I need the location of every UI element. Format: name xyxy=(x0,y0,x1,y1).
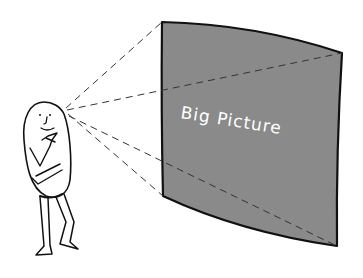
sight-line-top-left xyxy=(66,22,162,108)
big-picture-illustration: Big Picture xyxy=(0,0,363,278)
thinking-person-figure xyxy=(24,102,78,255)
figure-leg-right xyxy=(56,194,78,249)
figure-eye-left xyxy=(39,114,41,116)
figure-eye-right xyxy=(49,114,51,116)
screen-panel xyxy=(162,22,342,246)
figure-leg-left xyxy=(36,197,52,255)
